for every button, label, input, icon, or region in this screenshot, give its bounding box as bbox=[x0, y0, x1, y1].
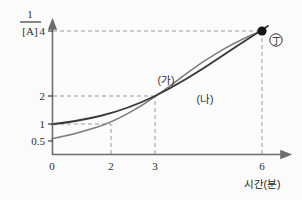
y-tick-label-2: 2 bbox=[40, 90, 46, 102]
intersection-dot bbox=[257, 26, 266, 35]
y-tick-label-4: 4 bbox=[40, 25, 46, 37]
series-label-b: (나) bbox=[197, 93, 214, 105]
y-axis-label-denominator: [A] bbox=[22, 25, 37, 37]
y-tick-label-1: 1 bbox=[40, 118, 46, 130]
rate-plot-svg: 1 [A] 4 2 1 0.5 0 2 3 6 시간(분) (가) (나) ㆜ bbox=[0, 0, 302, 200]
y-axis-label-numerator: 1 bbox=[27, 8, 33, 20]
series-label-a: (가) bbox=[158, 74, 175, 86]
chart-canvas: 1 [A] 4 2 1 0.5 0 2 3 6 시간(분) (가) (나) ㆜ bbox=[0, 0, 302, 200]
x-tick-label-3: 3 bbox=[152, 160, 158, 172]
annotation-label: ㆜ bbox=[272, 36, 281, 46]
x-axis-title: 시간(분) bbox=[244, 178, 281, 190]
y-tick-label-05: 0.5 bbox=[31, 135, 45, 147]
x-tick-label-0: 0 bbox=[49, 160, 55, 172]
x-tick-label-6: 6 bbox=[259, 160, 265, 172]
x-tick-label-2: 2 bbox=[108, 160, 114, 172]
